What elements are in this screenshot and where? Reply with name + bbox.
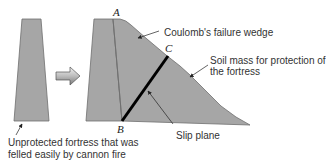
- right-arrow-icon: [56, 67, 80, 85]
- soil-leader: [190, 65, 208, 77]
- unprotected-fortress: [14, 19, 49, 121]
- unprotected-label-line2: felled easily by cannon fire: [8, 149, 126, 160]
- wedge-label: Coulomb's failure wedge: [164, 27, 273, 38]
- point-b-label: B: [117, 124, 124, 135]
- unprotected-leader: [16, 124, 22, 135]
- point-c-label: C: [165, 43, 172, 54]
- unprotected-label-line1: Unprotected fortress that was: [8, 137, 139, 148]
- slip-plane-label: Slip plane: [176, 130, 220, 141]
- soil-label-line2: the fortress: [210, 66, 260, 77]
- point-a-label: A: [113, 7, 120, 18]
- soil-label-line1: Soil mass for protection of: [210, 55, 326, 66]
